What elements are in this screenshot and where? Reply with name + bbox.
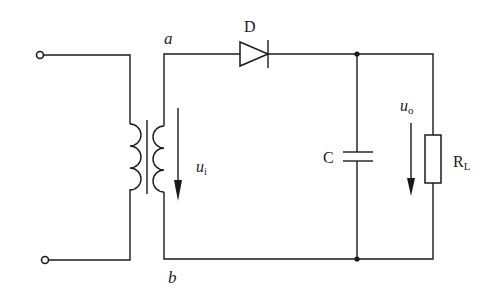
top-rail [357,54,433,135]
diode-symbol [240,40,357,68]
label-capacitor: C [323,149,334,166]
input-voltage-arrow [174,108,182,201]
label-diode: D [244,18,256,35]
input-terminal-top [37,52,44,59]
label-output-voltage: uo [400,97,414,116]
label-node-a: a [164,29,173,48]
circuit-diagram: a b D C RL ui uo [0,0,503,305]
input-terminal-bottom [42,257,49,264]
secondary-winding [153,126,164,192]
capacitor-symbol [343,54,373,259]
label-node-b: b [168,268,177,287]
primary-winding [130,124,141,190]
bottom-rail [357,183,433,259]
label-load-resistor: RL [453,153,471,172]
output-voltage-arrow [407,123,415,196]
primary-wiring [44,55,130,260]
load-resistor-symbol [425,135,441,183]
label-input-voltage: ui [196,158,207,177]
